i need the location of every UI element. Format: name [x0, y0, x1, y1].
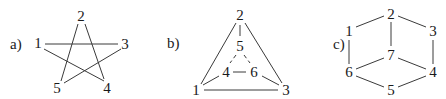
node-3-label: 3 [121, 36, 129, 52]
node-5-label: 5 [53, 80, 61, 96]
graph-diagrams-canvas: 12345a) 254613b) 2137645c) [0, 0, 446, 99]
node-1-label: 1 [345, 23, 353, 39]
diagram-c-hexagon-cube-graph: 2137645c) [333, 6, 437, 98]
edge-5-4 [398, 76, 426, 87]
diagram-a-pentagram-graph: 12345a) [10, 8, 129, 96]
node-5-label: 5 [387, 82, 395, 98]
edge-7-6 [356, 58, 384, 69]
node-2-label: 2 [387, 6, 395, 22]
node-1-label: 1 [34, 35, 42, 51]
node-4-label: 4 [429, 64, 437, 80]
node-4-label: 4 [103, 80, 111, 96]
edge-6-5 [356, 76, 384, 87]
node-5-label: 5 [236, 38, 244, 54]
edge-3-6 [262, 76, 279, 85]
node-2-label: 2 [77, 8, 85, 24]
node-2-label: 2 [236, 7, 244, 23]
diagram-b-nested-triangle-graph: 254613b) [167, 7, 290, 98]
edge-3-5 [64, 49, 121, 83]
edge-2-3 [398, 16, 426, 27]
edge-1-4 [203, 76, 219, 85]
edge-2-4 [85, 24, 104, 79]
node-6-label: 6 [345, 64, 353, 80]
edge-1-2 [356, 16, 384, 27]
edge-2-1 [201, 23, 236, 84]
edge-5-6 [244, 55, 250, 63]
node-1-label: 1 [192, 82, 200, 98]
node-6-label: 6 [250, 64, 258, 80]
edge-5-4 [230, 55, 236, 63]
edge-2-5 [61, 24, 78, 81]
node-7-label: 7 [387, 47, 395, 63]
node-3-label: 3 [282, 82, 290, 98]
panel-label-a: a) [10, 36, 22, 53]
panel-label-b: b) [167, 35, 180, 52]
node-4-label: 4 [222, 64, 230, 80]
node-3-label: 3 [429, 23, 437, 39]
edge-7-4 [398, 58, 426, 69]
panel-label-c: c) [333, 36, 345, 53]
